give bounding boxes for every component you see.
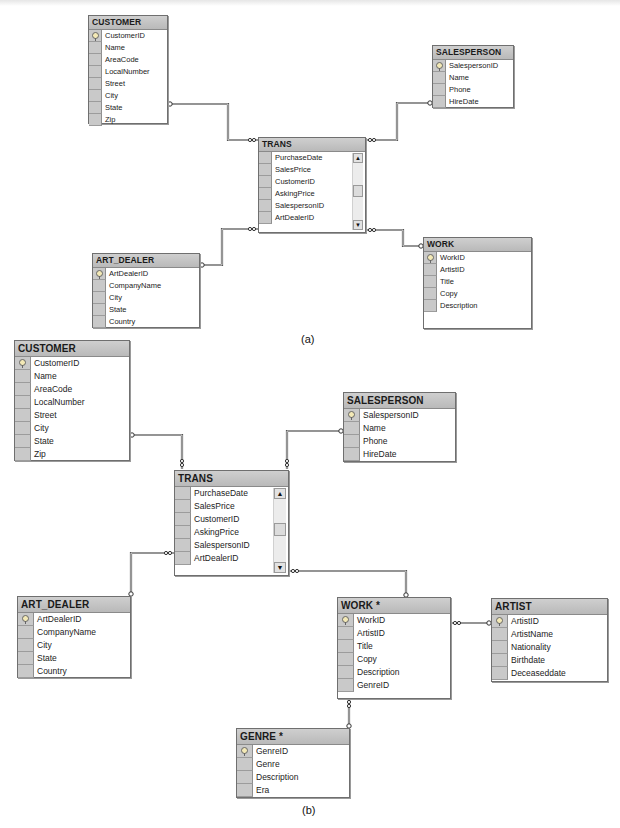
column-row[interactable]: ArtDealerID [18,613,130,626]
scroll-thumb[interactable] [274,523,286,536]
row-selector[interactable] [424,264,437,276]
column-row[interactable]: Country [18,665,130,678]
table-salesperson-a[interactable]: SALESPERSON SalespersonID Name Phone Hir… [432,45,514,108]
column-row[interactable]: Description [237,771,349,784]
scroll-down-arrow-icon[interactable]: ▼ [353,220,363,230]
row-selector[interactable] [338,679,354,692]
table-trans-b[interactable]: TRANS PurchaseDate SalesPrice CustomerID… [174,470,289,576]
column-row[interactable]: ArtDealerID [175,552,288,565]
row-selector[interactable] [18,626,34,639]
column-row[interactable]: Title [424,276,531,288]
row-selector[interactable] [89,42,102,54]
vertical-scrollbar[interactable]: ▲ ▼ [273,488,286,573]
column-row[interactable]: City [15,422,129,435]
row-selector[interactable] [89,102,102,114]
row-selector[interactable] [433,72,446,84]
column-row[interactable]: ArtDealerID [259,212,365,224]
row-selector[interactable] [259,164,272,176]
column-row[interactable]: State [18,652,130,665]
row-selector[interactable] [237,745,253,758]
column-row[interactable]: Name [344,422,455,435]
column-row[interactable]: State [89,102,167,114]
column-row[interactable]: CustomerID [15,357,129,370]
row-selector[interactable] [237,758,253,771]
vertical-scrollbar[interactable]: ▲ ▼ [352,153,363,230]
row-selector[interactable] [259,200,272,212]
column-row[interactable]: AreaCode [89,54,167,66]
column-row[interactable]: Title [338,640,450,653]
column-row[interactable]: Phone [433,84,513,96]
table-customer-a[interactable]: CUSTOMER CustomerID Name AreaCode LocalN… [88,15,168,124]
column-row[interactable]: State [15,435,129,448]
row-selector[interactable] [175,552,191,565]
table-artist-b[interactable]: ARTIST ArtistID ArtistName Nationality B… [491,598,608,682]
row-selector[interactable] [433,96,446,108]
column-row[interactable]: Description [424,300,531,312]
row-selector[interactable] [89,54,102,66]
column-row[interactable]: Name [433,72,513,84]
row-selector[interactable] [93,268,106,280]
column-row[interactable]: SalespersonID [175,539,288,552]
row-selector[interactable] [344,448,360,461]
column-row[interactable]: GenreID [237,745,349,758]
row-selector[interactable] [338,627,354,640]
row-selector[interactable] [15,357,31,370]
column-row[interactable]: Nationality [492,641,607,654]
row-selector[interactable] [344,435,360,448]
row-selector[interactable] [259,176,272,188]
table-trans-a[interactable]: TRANS PurchaseDate SalesPrice CustomerID… [258,137,366,233]
column-row[interactable]: CustomerID [259,176,365,188]
column-row[interactable]: Copy [338,653,450,666]
row-selector[interactable] [89,90,102,102]
row-selector[interactable] [492,628,508,641]
column-row[interactable]: Zip [89,114,167,126]
scroll-up-arrow-icon[interactable]: ▲ [353,153,363,163]
row-selector[interactable] [89,78,102,90]
column-row[interactable]: HireDate [344,448,455,461]
row-selector[interactable] [18,652,34,665]
row-selector[interactable] [89,30,102,42]
row-selector[interactable] [344,422,360,435]
column-row[interactable]: Era [237,784,349,797]
column-row[interactable]: SalesPrice [259,164,365,176]
row-selector[interactable] [15,448,31,461]
column-row[interactable]: SalesPrice [175,500,288,513]
row-selector[interactable] [15,383,31,396]
row-selector[interactable] [93,292,106,304]
column-row[interactable]: City [89,90,167,102]
column-row[interactable]: Zip [15,448,129,461]
table-art-dealer-a[interactable]: ART_DEALER ArtDealerID CompanyName City … [92,253,200,328]
column-row[interactable]: Copy [424,288,531,300]
table-work-a[interactable]: WORK WorkID ArtistID Title Copy Descript… [423,237,532,329]
column-row[interactable]: Country [93,316,199,328]
row-selector[interactable] [492,654,508,667]
row-selector[interactable] [338,614,354,627]
row-selector[interactable] [338,666,354,679]
row-selector[interactable] [89,66,102,78]
column-row[interactable]: AskingPrice [259,188,365,200]
column-row[interactable]: LocalNumber [15,396,129,409]
scroll-thumb[interactable] [353,185,363,197]
row-selector[interactable] [424,276,437,288]
column-row[interactable]: WorkID [338,614,450,627]
column-row[interactable]: ArtistName [492,628,607,641]
table-genre-b[interactable]: GENRE * GenreID Genre Description Era [236,728,350,798]
row-selector[interactable] [237,784,253,797]
column-row[interactable]: SalespersonID [344,409,455,422]
row-selector[interactable] [89,114,102,126]
row-selector[interactable] [424,288,437,300]
column-row[interactable]: PurchaseDate [259,152,365,164]
column-row[interactable]: Street [89,78,167,90]
row-selector[interactable] [259,188,272,200]
scroll-down-arrow-icon[interactable]: ▼ [274,562,286,573]
row-selector[interactable] [492,667,508,680]
column-row[interactable]: CompanyName [93,280,199,292]
column-row[interactable]: ArtDealerID [93,268,199,280]
column-row[interactable]: HireDate [433,96,513,108]
row-selector[interactable] [93,304,106,316]
column-row[interactable]: Name [15,370,129,383]
column-row[interactable]: LocalNumber [89,66,167,78]
table-customer-b[interactable]: CUSTOMER CustomerID Name AreaCode LocalN… [14,340,130,461]
column-row[interactable]: CustomerID [175,513,288,526]
scroll-up-arrow-icon[interactable]: ▲ [274,488,286,499]
